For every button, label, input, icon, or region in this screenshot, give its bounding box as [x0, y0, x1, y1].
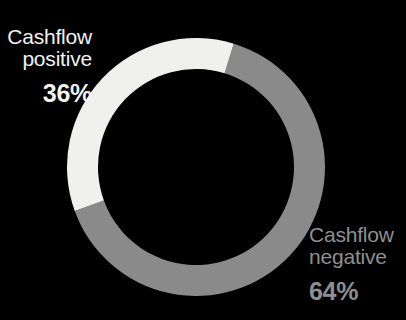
donut-slice-positive[interactable]	[67, 38, 234, 211]
label-negative-line2: negative	[309, 246, 405, 268]
label-negative-percent: 64%	[309, 278, 405, 305]
label-positive-percent: 36%	[0, 80, 92, 107]
label-cashflow-positive: Cashflow positive 36%	[0, 26, 92, 106]
label-positive-line1: Cashflow	[0, 26, 92, 48]
donut-graphic	[67, 38, 325, 296]
donut-svg	[67, 38, 325, 296]
label-negative-line1: Cashflow	[309, 224, 405, 246]
label-positive-line2: positive	[0, 48, 92, 70]
label-cashflow-negative: Cashflow negative 64%	[309, 224, 405, 304]
donut-chart: Cashflow positive 36% Cashflow negative …	[0, 0, 406, 320]
